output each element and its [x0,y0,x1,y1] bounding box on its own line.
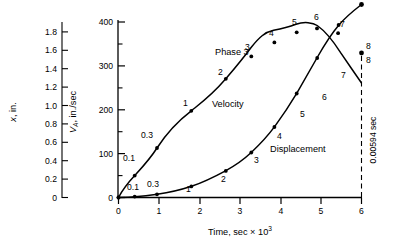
y-left-ticklabel: 1.4 [45,64,57,74]
displacement-annotation: Displacement [270,144,326,154]
phase-3-annotation: Phase 3 [215,47,249,57]
svg-text:VA, in./sec: VA, in./sec [68,90,79,133]
y-left-ticklabel: 1.0 [45,101,57,111]
series-displacement: 0.1 0.3 1 2 3 4 5 6 7 8 [117,2,371,199]
x-axis-title-exponent: 3 [268,225,272,232]
velocity-point-label: 2 [218,67,223,77]
velocity-point-label: 1 [183,98,188,108]
y-va-ticklabel: 300 [99,61,114,71]
y-axis-va-title: VA, in./sec [68,90,79,133]
y-left-ticklabel: 0.2 [45,174,57,184]
x-ticklabel: 4 [279,206,284,216]
displacement-point-label: 8 [366,55,371,65]
displacement-point-label: 5 [300,109,305,119]
velocity-point [189,109,193,113]
y-left-ticklabel: 0.6 [45,137,57,147]
y-left-ticklabel: 1.6 [45,45,57,55]
x-axis: 0 1 2 3 4 5 6 Time, sec × 103 [116,198,364,238]
displacement-point [155,192,159,196]
displacement-point [315,56,319,60]
x-ticklabel: 0 [116,206,121,216]
x-ticklabel: 6 [359,206,364,216]
velocity-point [155,146,159,150]
displacement-point-label: 1 [186,184,191,194]
y-left-ticklabel: 0.8 [45,119,57,129]
displacement-point [117,196,121,200]
y-left-ticklabel: 1.8 [45,27,57,37]
y-va-ticklabel: 400 [99,17,114,27]
velocity-point [315,27,319,31]
displacement-point [273,125,277,129]
x-ticklabel: 3 [238,206,243,216]
displacement-point [359,2,364,7]
velocity-point [224,77,228,81]
velocity-point-label: 0.1 [123,153,135,163]
velocity-point-label: 6 [314,12,319,22]
displacement-point [133,195,137,199]
figure: 0 0.2 0.4 0.6 0.8 1.0 1.2 1.4 1.6 1.8 x,… [0,0,398,244]
displacement-point [249,151,253,155]
end-time-label: 0.00594 sec [368,116,378,164]
y-axis-left: 0 0.2 0.4 0.6 0.8 1.0 1.2 1.4 1.6 1.8 x,… [8,22,68,203]
x-axis-title-text: Time, sec × 10 [208,227,268,237]
velocity-point [133,174,137,178]
y-left-title-unit: , in. [8,102,18,117]
y-va-ticklabel: 100 [99,149,114,159]
x-ticklabel: 1 [157,206,162,216]
velocity-annotation: Velocity [212,99,244,109]
displacement-point-label: 3 [254,155,259,165]
displacement-point [224,169,228,173]
displacement-point-label: 6 [322,92,327,102]
y-left-ticklabel: 1.2 [45,82,57,92]
displacement-point-label: 4 [277,131,282,141]
displacement-point-label: 0.1 [127,182,139,192]
x-ticklabel: 5 [319,206,324,216]
velocity-point-label: 8 [366,41,371,51]
displacement-point-label: 2 [221,174,226,184]
x-axis-title: Time, sec × 103 [208,225,272,237]
y-va-ticklabel: 200 [99,105,114,115]
velocity-point [359,51,364,56]
y-va-ticklabel: 0 [108,193,113,203]
velocity-point [249,55,253,59]
chart-svg: 0 0.2 0.4 0.6 0.8 1.0 1.2 1.4 1.6 1.8 x,… [0,0,398,244]
velocity-point [295,30,299,34]
velocity-point-label: 5 [292,17,297,27]
x-ticklabel: 2 [198,206,203,216]
velocity-point [273,41,277,45]
displacement-point [337,23,341,27]
y-axis-left-title: x, in. [8,102,18,122]
y-left-ticklabel: 0.4 [45,156,57,166]
displacement-point [295,92,299,96]
y-left-ticklabel: 0 [52,193,57,203]
y-va-title-unit: , in./sec [68,90,78,122]
velocity-point [336,31,340,35]
displacement-point-label: 0.3 [147,179,159,189]
displacement-point-label: 7 [341,70,346,80]
series-velocity: 0.1 0.3 1 2 3 4 5 6 7 8 [117,12,371,199]
velocity-point-label: 4 [269,28,274,38]
velocity-point-label: 0.3 [141,130,153,140]
y-axis-va: 0 100 200 300 400 VA, in./sec [68,17,125,203]
svg-text:x, in.: x, in. [8,102,18,122]
end-time-marker: 0.00594 sec [362,56,379,198]
